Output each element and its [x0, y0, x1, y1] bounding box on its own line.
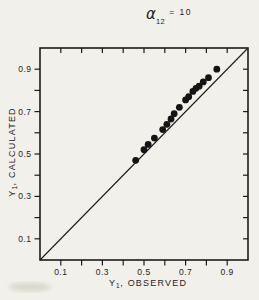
y-tick-label: 0.1	[18, 234, 31, 244]
scan-smudge	[9, 283, 51, 292]
data-point	[185, 93, 192, 100]
data-point	[151, 135, 158, 142]
data-point	[132, 157, 139, 164]
x-tick-label: 0.9	[221, 267, 234, 277]
data-point	[159, 126, 166, 133]
x-tick-label: 0.7	[179, 267, 192, 277]
y-tick-label: 0.7	[18, 107, 31, 117]
x-tick-label: 0.3	[96, 267, 109, 277]
data-point	[145, 141, 152, 148]
data-point	[176, 104, 183, 111]
y-tick-label: 0.3	[18, 191, 31, 201]
scatter-plot: 0.10.10.30.30.50.50.70.70.90.9	[0, 0, 259, 300]
x-tick-label: 0.1	[54, 267, 67, 277]
data-point	[141, 146, 148, 153]
data-point	[205, 74, 212, 81]
y-tick-label: 0.9	[18, 64, 31, 74]
y-tick-label: 0.5	[18, 149, 31, 159]
x-tick-label: 0.5	[137, 267, 150, 277]
data-point	[171, 110, 178, 117]
identity-line	[40, 48, 248, 260]
data-point	[213, 66, 220, 73]
data-point	[163, 121, 170, 128]
